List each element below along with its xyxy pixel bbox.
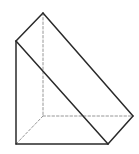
visible-edge (108, 116, 133, 144)
visible-edge (43, 13, 133, 116)
visible-edge (16, 41, 108, 144)
visible-edge (16, 13, 43, 41)
visible-edges (16, 13, 133, 144)
triangular-prism-figure (0, 0, 139, 154)
hidden-edges (16, 13, 133, 144)
prism-diagram (0, 0, 139, 154)
hidden-edge (16, 116, 43, 144)
